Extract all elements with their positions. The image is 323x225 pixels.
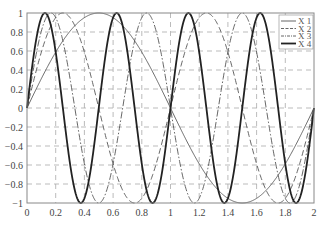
x-axis-ticks: 00.20.40.60.811.21.41.61.82: [25, 207, 317, 218]
x-tick-label: 0.6: [107, 207, 120, 218]
x-tick-label: 0.8: [136, 207, 149, 218]
x-tick-label: 1.2: [193, 207, 206, 218]
x-tick-label: 1.4: [222, 207, 235, 218]
y-tick-label: 0.6: [11, 46, 24, 57]
y-tick-label: 0.4: [11, 65, 24, 76]
y-tick-label: −0.6: [5, 160, 23, 171]
chart: 00.20.40.60.811.21.41.61.82 10.80.60.40.…: [0, 0, 323, 225]
x-tick-label: 1.6: [250, 207, 263, 218]
legend-label: X 4: [298, 39, 312, 49]
y-tick-label: −0.8: [5, 179, 23, 190]
y-tick-label: 0.2: [11, 84, 24, 95]
x-tick-label: 0.2: [49, 207, 62, 218]
x-tick-label: 0: [25, 207, 30, 218]
x-tick-label: 2: [312, 207, 317, 218]
y-tick-label: −1: [12, 198, 23, 209]
y-axis-ticks: 10.80.60.40.20−0.2−0.4−0.6−0.8−1: [5, 8, 23, 209]
x-tick-label: 1.8: [279, 207, 292, 218]
y-tick-label: −0.4: [5, 141, 23, 152]
y-tick-label: 0: [18, 103, 23, 114]
y-tick-label: 0.8: [11, 27, 24, 38]
y-tick-label: 1: [18, 8, 23, 19]
x-tick-label: 0.4: [78, 207, 91, 218]
y-tick-label: −0.2: [5, 122, 23, 133]
x-tick-label: 1: [168, 207, 173, 218]
legend: X 1X 2X 3X 4: [279, 15, 313, 49]
